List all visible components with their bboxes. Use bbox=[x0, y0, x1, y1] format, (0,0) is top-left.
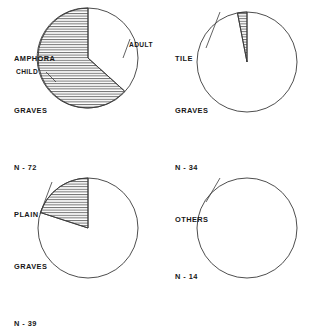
pie-outline bbox=[197, 178, 297, 278]
title-line-2: GRAVES bbox=[14, 106, 55, 116]
plain-graves-title: PLAIN GRAVES N - 39 bbox=[14, 168, 47, 330]
title-line-1: AMPHORA bbox=[14, 54, 55, 64]
title-line-1: TILE bbox=[175, 54, 208, 64]
title-line-1: OTHERS bbox=[175, 215, 209, 225]
plain-graves-n-label: N - 39 bbox=[14, 319, 47, 329]
slice-label-child: CHILD bbox=[16, 68, 38, 75]
panel-others: OTHERS N - 14 bbox=[162, 142, 323, 284]
panel-tile-graves: TILE GRAVES N - 34 bbox=[162, 0, 323, 142]
others-n-label: N - 14 bbox=[175, 272, 209, 282]
slice-label-adult: ADULT bbox=[129, 41, 153, 48]
title-line-1: PLAIN bbox=[14, 210, 47, 220]
others-title: OTHERS N - 14 bbox=[175, 173, 209, 324]
title-line-2: GRAVES bbox=[175, 106, 208, 116]
panel-amphora-graves: AMPHORA GRAVES N - 72 CHILD bbox=[0, 0, 162, 142]
panel-plain-graves: PLAIN GRAVES N - 39 bbox=[0, 142, 162, 284]
title-line-2: GRAVES bbox=[14, 262, 47, 272]
